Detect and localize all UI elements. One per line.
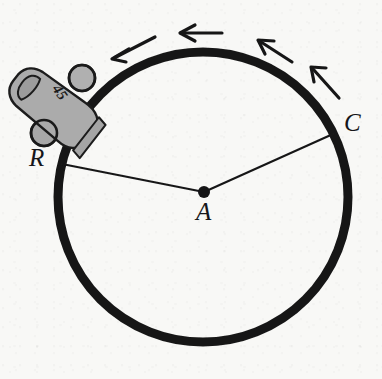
direction-arrow-3 [258, 40, 292, 62]
direction-arrow-4 [311, 67, 339, 98]
figure-canvas: 45 R A C [0, 0, 382, 379]
point-label-A: A [196, 199, 211, 224]
center-point-dot [198, 186, 210, 198]
point-label-C: C [344, 110, 361, 135]
race-car: 45 [1, 59, 109, 158]
radii-group [62, 134, 333, 192]
radius-A-to-R [62, 164, 204, 192]
point-label-R: R [29, 145, 44, 170]
diagram-svg: 45 [0, 0, 382, 379]
radius-A-to-C [204, 134, 333, 192]
direction-arrow-2 [180, 25, 222, 41]
